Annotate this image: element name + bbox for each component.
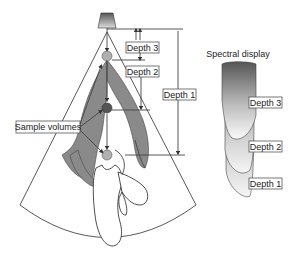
spectral-depth-2-text: Depth 2	[250, 142, 282, 152]
spectral-depth-1-text: Depth 1	[250, 179, 282, 189]
transducer-icon	[98, 13, 116, 28]
spectral-display-title: Spectral display	[206, 49, 270, 59]
depth-1-text: Depth 1	[164, 90, 196, 100]
depth-1-label: Depth 1	[163, 89, 196, 100]
sample-volumes-label: Sample volumes	[15, 121, 82, 133]
spectral-label-depth-2: Depth 2	[249, 141, 282, 152]
sample-volume-depth-1	[102, 150, 112, 160]
spectral-depth-3-text: Depth 3	[250, 98, 282, 108]
doppler-diagram: Depth 3 Depth 2 Depth 1 Sample volumes S…	[0, 0, 297, 258]
sample-volume-depth-2	[102, 103, 112, 113]
heart-chamber	[93, 165, 122, 246]
sample-volumes-text: Sample volumes	[15, 122, 82, 132]
spectral-label-depth-1: Depth 1	[249, 178, 282, 189]
depth-3-label: Depth 3	[126, 42, 159, 53]
depth-2-label: Depth 2	[126, 66, 159, 77]
spectral-label-depth-3: Depth 3	[249, 97, 282, 108]
depth-3-text: Depth 3	[127, 43, 159, 53]
heart-wall-left	[62, 60, 107, 180]
depth-2-text: Depth 2	[127, 67, 159, 77]
sample-volume-depth-3	[102, 51, 112, 61]
